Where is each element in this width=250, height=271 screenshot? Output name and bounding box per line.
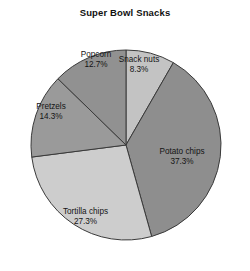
pie-slices-group [31, 50, 221, 240]
pie-chart-canvas [0, 0, 250, 271]
pie-chart-figure: Super Bowl Snacks Snack nuts8.3%Potato c… [0, 0, 250, 271]
